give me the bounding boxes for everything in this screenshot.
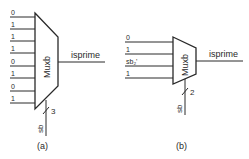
input-label-1: 1 <box>11 21 15 28</box>
diagram-a: 0 1 1 1 0 1 0 1 Muxb isprime 3 sb (a) <box>10 9 105 151</box>
mux-diagrams: 0 1 1 1 0 1 0 1 Muxb isprime 3 sb (a) 0 … <box>0 0 249 159</box>
input-label-3: 1 <box>11 45 15 52</box>
caption-b: (b) <box>176 141 187 151</box>
input-label-2: sb₂' <box>126 58 137 65</box>
input-label-1: 1 <box>126 46 130 53</box>
input-label-4: 0 <box>11 58 15 65</box>
input-label-2: 1 <box>11 33 15 40</box>
diagram-b: 0 1 sb₂' 1 Muxb isprime 2 sb (b) <box>125 34 243 151</box>
mux-label: Muxb <box>42 56 52 78</box>
input-label-3: 1 <box>126 70 130 77</box>
input-label-6: 0 <box>11 83 15 90</box>
input-label-0: 0 <box>126 34 130 41</box>
input-label-5: 1 <box>11 70 15 77</box>
input-label-7: 1 <box>11 95 15 102</box>
output-label: isprime <box>209 49 238 59</box>
select-width: 2 <box>190 88 195 97</box>
output-label: isprime <box>71 50 100 60</box>
mux-label: Muxb <box>180 54 190 76</box>
select-label: sb <box>175 104 184 113</box>
select-label: sb <box>36 124 45 133</box>
caption-a: (a) <box>37 141 48 151</box>
input-label-0: 0 <box>11 9 15 16</box>
select-width: 3 <box>51 107 56 116</box>
